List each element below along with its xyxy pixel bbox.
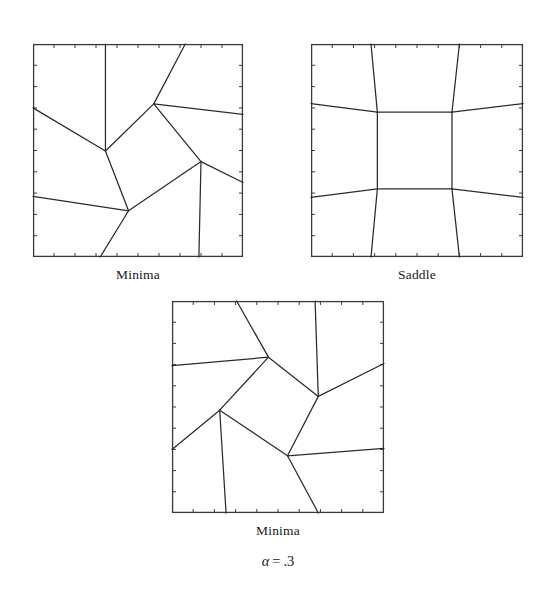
e-left-mid-to-left-border (33, 108, 105, 151)
network-edges (172, 301, 384, 513)
alpha-value: .3 (283, 553, 294, 569)
e-right-mid-to-bottom (199, 162, 201, 257)
panel-minima-bottom-canvas (172, 301, 384, 513)
e-upper-to-top (237, 301, 269, 357)
e-bl-down (371, 189, 377, 257)
panel-minima-bottom (172, 301, 384, 513)
e-lower-left-to-left-border (33, 196, 129, 210)
panel-minima-top-left-canvas (33, 44, 243, 257)
e-left-mid-to-lower-right (220, 410, 288, 456)
panel-frame (34, 45, 243, 257)
equals-sign: = (269, 553, 283, 569)
e-bl-left (311, 189, 377, 198)
e-lower-left-to-right-mid (129, 162, 201, 211)
e-upper-to-left-mid (105, 104, 153, 151)
e-top-to-upper (154, 44, 186, 104)
panel-minima-top-left (33, 44, 243, 257)
network-edges (311, 44, 523, 257)
axis-ticks (172, 301, 384, 513)
e-br-down (452, 189, 459, 257)
panel-saddle-top-right-canvas (311, 44, 523, 257)
e-upper-to-right-border (154, 104, 243, 114)
e-tl-left (311, 104, 377, 113)
panel-frame (312, 45, 523, 257)
e-upper-to-right-mid (154, 104, 201, 162)
e-right-mid-to-lower-right (288, 396, 319, 455)
axis-ticks (33, 44, 243, 257)
e-upper-to-left-border (172, 357, 268, 365)
e-left-mid-to-left-border (172, 410, 220, 449)
alpha-annotation: α=.3 (172, 553, 384, 570)
axis-ticks (311, 44, 523, 257)
e-right-mid-to-right-border (201, 162, 243, 183)
e-tr-right (452, 104, 523, 113)
network-edges (33, 44, 243, 257)
e-right-mid-to-top (315, 301, 318, 396)
e-lower-right-to-bottom (288, 456, 319, 513)
figure-root: MinimaSaddleMinimaα=.3 (0, 0, 545, 590)
panel-saddle-top-right-caption: Saddle (311, 267, 523, 283)
e-upper-to-left-mid (220, 357, 269, 410)
e-br-right (452, 189, 523, 198)
e-left-mid-to-bottom (220, 410, 226, 513)
e-left-mid-to-lower-left (105, 151, 128, 211)
e-tr-up (452, 44, 459, 112)
e-lower-right-to-right-border (288, 448, 384, 455)
panel-minima-top-left-caption: Minima (33, 267, 243, 283)
panel-saddle-top-right (311, 44, 523, 257)
panel-minima-bottom-caption: Minima (172, 523, 384, 539)
e-tl-up (371, 44, 377, 112)
panel-frame (173, 302, 384, 513)
e-upper-to-right-mid (268, 357, 318, 396)
e-right-mid-to-right-border (318, 364, 384, 397)
e-lower-left-to-bottom (100, 211, 128, 257)
